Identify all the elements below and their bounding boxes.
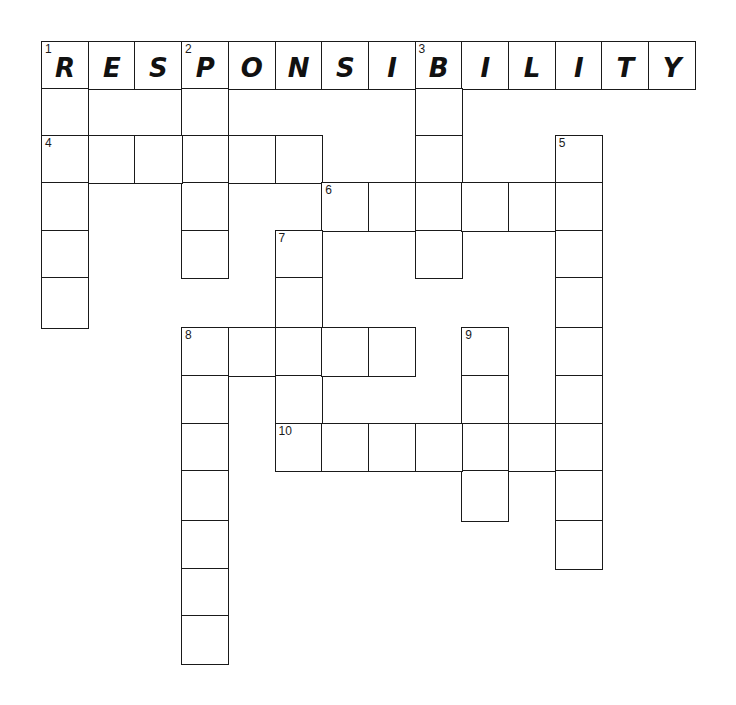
crossword-grid: 1RES2PONSI3BILITY45671089	[0, 0, 736, 705]
crossword-cell[interactable]	[555, 327, 603, 377]
crossword-cell[interactable]: 1R	[41, 41, 89, 90]
cell-letter: N	[276, 55, 322, 81]
crossword-cell[interactable]: T	[601, 41, 649, 90]
crossword-cell[interactable]	[181, 520, 229, 570]
clue-number: 6	[325, 184, 332, 196]
crossword-cell[interactable]	[461, 375, 509, 425]
crossword-cell[interactable]	[461, 470, 509, 522]
crossword-cell[interactable]	[555, 277, 603, 329]
crossword-cell[interactable]: S	[321, 41, 369, 90]
crossword-cell[interactable]	[275, 277, 323, 329]
crossword-cell[interactable]	[508, 182, 556, 232]
crossword-cell[interactable]: O	[228, 41, 276, 90]
crossword-cell[interactable]	[88, 135, 136, 184]
crossword-cell[interactable]: L	[508, 41, 556, 90]
crossword-cell[interactable]	[555, 470, 603, 522]
crossword-cell[interactable]: 8	[181, 327, 229, 377]
crossword-cell[interactable]	[275, 327, 323, 377]
clue-number: 1	[45, 43, 52, 55]
crossword-cell[interactable]	[41, 182, 89, 232]
clue-number: 3	[419, 43, 426, 55]
cell-letter: S	[322, 55, 368, 81]
crossword-cell[interactable]	[181, 423, 229, 472]
crossword-cell[interactable]: 2P	[181, 41, 229, 90]
crossword-cell[interactable]: 10	[275, 423, 323, 472]
crossword-cell[interactable]	[181, 230, 229, 279]
crossword-cell[interactable]	[181, 615, 229, 665]
crossword-cell[interactable]: 3B	[415, 41, 463, 90]
crossword-cell[interactable]	[555, 520, 603, 570]
crossword-cell[interactable]: I	[461, 41, 509, 90]
crossword-cell[interactable]: Y	[648, 41, 696, 90]
crossword-cell[interactable]	[181, 375, 229, 425]
crossword-cell[interactable]	[181, 568, 229, 617]
crossword-cell[interactable]	[275, 375, 323, 425]
clue-number: 4	[45, 137, 52, 149]
crossword-cell[interactable]: E	[88, 41, 136, 90]
clue-number: 10	[279, 425, 292, 437]
clue-number: 7	[279, 232, 286, 244]
crossword-cell[interactable]	[555, 230, 603, 279]
crossword-cell[interactable]: 5	[555, 135, 603, 184]
cell-letter: S	[135, 55, 181, 81]
crossword-cell[interactable]	[415, 135, 463, 184]
crossword-cell[interactable]	[555, 375, 603, 425]
crossword-cell[interactable]	[41, 230, 89, 279]
clue-number: 5	[559, 137, 566, 149]
crossword-cell[interactable]	[41, 88, 89, 137]
crossword-cell[interactable]	[555, 423, 603, 472]
crossword-cell[interactable]	[134, 135, 182, 184]
crossword-cell[interactable]	[181, 88, 229, 137]
crossword-cell[interactable]	[461, 182, 509, 232]
cell-letter: I	[556, 55, 602, 81]
clue-number: 2	[185, 43, 192, 55]
crossword-cell[interactable]	[181, 182, 229, 232]
crossword-cell[interactable]	[41, 277, 89, 329]
crossword-cell[interactable]	[508, 423, 556, 472]
cell-letter: P	[182, 55, 228, 81]
cell-letter: I	[369, 55, 415, 81]
crossword-cell[interactable]	[555, 182, 603, 232]
crossword-cell[interactable]: 6	[321, 182, 369, 232]
cell-letter: O	[229, 55, 275, 81]
crossword-cell[interactable]	[321, 423, 369, 472]
crossword-cell[interactable]	[368, 327, 416, 377]
cell-letter: Y	[649, 55, 695, 81]
cell-letter: T	[602, 55, 648, 81]
crossword-cell[interactable]: I	[555, 41, 603, 90]
cell-letter: R	[42, 55, 88, 81]
crossword-cell[interactable]: 7	[275, 230, 323, 279]
crossword-cell[interactable]: S	[134, 41, 182, 90]
cell-letter: I	[462, 55, 508, 81]
clue-number: 9	[465, 329, 472, 341]
crossword-cell[interactable]: I	[368, 41, 416, 90]
crossword-cell[interactable]	[228, 327, 276, 377]
crossword-cell[interactable]	[415, 182, 463, 232]
crossword-cell[interactable]	[415, 423, 463, 472]
crossword-cell[interactable]	[368, 423, 416, 472]
crossword-cell[interactable]	[321, 327, 369, 377]
cell-letter: L	[509, 55, 555, 81]
crossword-cell[interactable]	[275, 135, 323, 184]
cell-letter: B	[416, 55, 462, 81]
crossword-cell[interactable]	[181, 135, 229, 184]
cell-letter: E	[89, 55, 135, 81]
crossword-cell[interactable]	[228, 135, 276, 184]
crossword-cell[interactable]	[461, 423, 509, 472]
crossword-cell[interactable]: N	[275, 41, 323, 90]
crossword-cell[interactable]	[368, 182, 416, 232]
crossword-cell[interactable]	[181, 470, 229, 522]
crossword-cell[interactable]: 4	[41, 135, 89, 184]
crossword-cell[interactable]	[415, 88, 463, 137]
clue-number: 8	[185, 329, 192, 341]
crossword-cell[interactable]: 9	[461, 327, 509, 377]
crossword-cell[interactable]	[415, 230, 463, 279]
